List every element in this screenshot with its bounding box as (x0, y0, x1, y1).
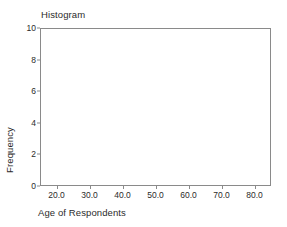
histogram-chart: Histogram Age of Respondents Frequency 0… (0, 0, 287, 227)
y-tick-label: 6 (31, 87, 36, 96)
x-tick-label: 30.0 (81, 191, 98, 200)
plot-area (40, 28, 271, 186)
y-tick-label: 8 (31, 55, 36, 64)
x-tick-mark (123, 186, 124, 189)
y-tick-mark (37, 59, 40, 60)
x-tick-label: 60.0 (180, 191, 197, 200)
x-tick-mark (189, 186, 190, 189)
x-tick-label: 40.0 (114, 191, 131, 200)
y-tick-mark (37, 186, 40, 187)
x-tick-mark (255, 186, 256, 189)
y-tick-mark (37, 28, 40, 29)
y-tick-mark (37, 154, 40, 155)
x-tick-label: 80.0 (246, 191, 263, 200)
bars-layer (41, 29, 270, 185)
x-tick-mark (222, 186, 223, 189)
y-axis-title: Frequency (4, 127, 15, 173)
y-tick-label: 0 (31, 182, 36, 191)
x-axis-title: Age of Respondents (38, 207, 126, 218)
y-tick-label: 10 (27, 24, 36, 33)
x-tick-label: 50.0 (147, 191, 164, 200)
y-tick-label: 4 (31, 118, 36, 127)
x-tick-mark (57, 186, 58, 189)
y-tick-label: 2 (31, 150, 36, 159)
x-tick-mark (156, 186, 157, 189)
y-axis (0, 0, 40, 227)
x-tick-label: 20.0 (48, 191, 65, 200)
y-tick-mark (37, 91, 40, 92)
x-tick-mark (90, 186, 91, 189)
chart-title: Histogram (41, 9, 85, 20)
y-tick-mark (37, 122, 40, 123)
x-tick-label: 70.0 (213, 191, 230, 200)
